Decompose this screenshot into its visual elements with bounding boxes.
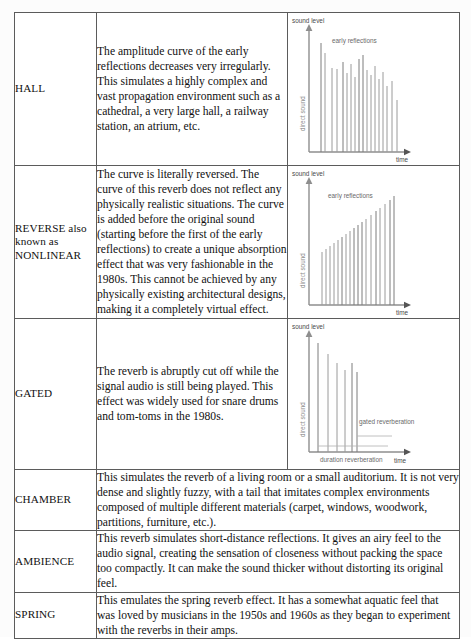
reverb-description-spring: This emulates the spring reverb effect. … <box>97 592 460 638</box>
gated-direct-sound-label: direct sound <box>299 402 306 437</box>
table-row: AMBIENCE This reverb simulates short-dis… <box>15 531 460 592</box>
hall-bars <box>321 43 397 152</box>
chart-hall: sound level time early reflections direc… <box>288 13 459 165</box>
gated-xlabel: time <box>394 457 407 464</box>
reverb-name-reverse: REVERSE also known as NONLINEAR <box>15 166 97 319</box>
chart-gated: sound level time direct sound <box>288 319 459 469</box>
gated-bars <box>318 343 357 452</box>
gated-x-axis-arrow-icon <box>404 449 411 455</box>
hall-x-axis-arrow-icon <box>404 149 411 155</box>
reverb-name-spring: SPRING <box>15 592 97 638</box>
table-row: GATED The reverb is abruptly cut off whi… <box>15 319 460 470</box>
table-row: REVERSE also known as NONLINEAR The curv… <box>15 166 460 319</box>
hall-annotation: early reflections <box>332 37 377 45</box>
reverb-description-hall: The amplitude curve of the early reflect… <box>97 13 288 166</box>
reverb-name-gated: GATED <box>15 319 97 470</box>
reverse-annotation: early reflections <box>328 192 373 200</box>
gated-diagram-svg: sound level time direct sound <box>288 319 460 469</box>
reverse-direct-sound-label: direct sound <box>299 253 306 288</box>
table-row: CHAMBER This simulates the reverb of a l… <box>15 470 460 531</box>
reverse-diagram-svg: sound level time early reflections direc… <box>288 166 460 318</box>
gated-ylabel: sound level <box>292 323 324 330</box>
hall-y-axis-arrow-icon <box>306 24 313 31</box>
reverse-y-axis-arrow-icon <box>306 177 313 184</box>
reverb-chart-cell-gated: sound level time direct sound <box>288 319 460 470</box>
table-row: HALL The amplitude curve of the early re… <box>15 13 460 166</box>
hall-ylabel: sound level <box>292 17 324 24</box>
reverse-bars <box>322 196 394 305</box>
reverb-description-chamber: This simulates the reverb of a living ro… <box>97 470 460 531</box>
hall-xlabel: time <box>396 156 409 163</box>
reverb-name-chamber: CHAMBER <box>15 470 97 531</box>
reverb-types-table: HALL The amplitude curve of the early re… <box>14 12 460 639</box>
reverb-name-ambience: AMBIENCE <box>15 531 97 592</box>
reverb-description-gated: The reverb is abruptly cut off while the… <box>97 319 288 470</box>
hall-diagram-svg: sound level time early reflections direc… <box>288 13 460 165</box>
reverb-name-hall: HALL <box>15 13 97 166</box>
hall-direct-sound-label: direct sound <box>299 96 306 131</box>
reverse-x-axis-arrow-icon <box>404 302 411 308</box>
reverb-description-reverse: The curve is literally reversed. The cur… <box>97 166 288 319</box>
reverb-chart-cell-hall: sound level time early reflections direc… <box>288 13 460 166</box>
gated-annotation: gated reverberation <box>359 418 415 426</box>
reverse-xlabel: time <box>396 309 409 316</box>
table-row: SPRING This emulates the spring reverb e… <box>15 592 460 638</box>
gated-y-axis-arrow-icon <box>306 330 313 337</box>
reverb-chart-cell-reverse: sound level time early reflections direc… <box>288 166 460 319</box>
chart-reverse: sound level time early reflections direc… <box>288 166 459 318</box>
gated-annotation-duration: duration reverberation <box>320 456 383 463</box>
reverse-ylabel: sound level <box>292 170 324 177</box>
reverb-description-ambience: This reverb simulates short-distance ref… <box>97 531 460 592</box>
